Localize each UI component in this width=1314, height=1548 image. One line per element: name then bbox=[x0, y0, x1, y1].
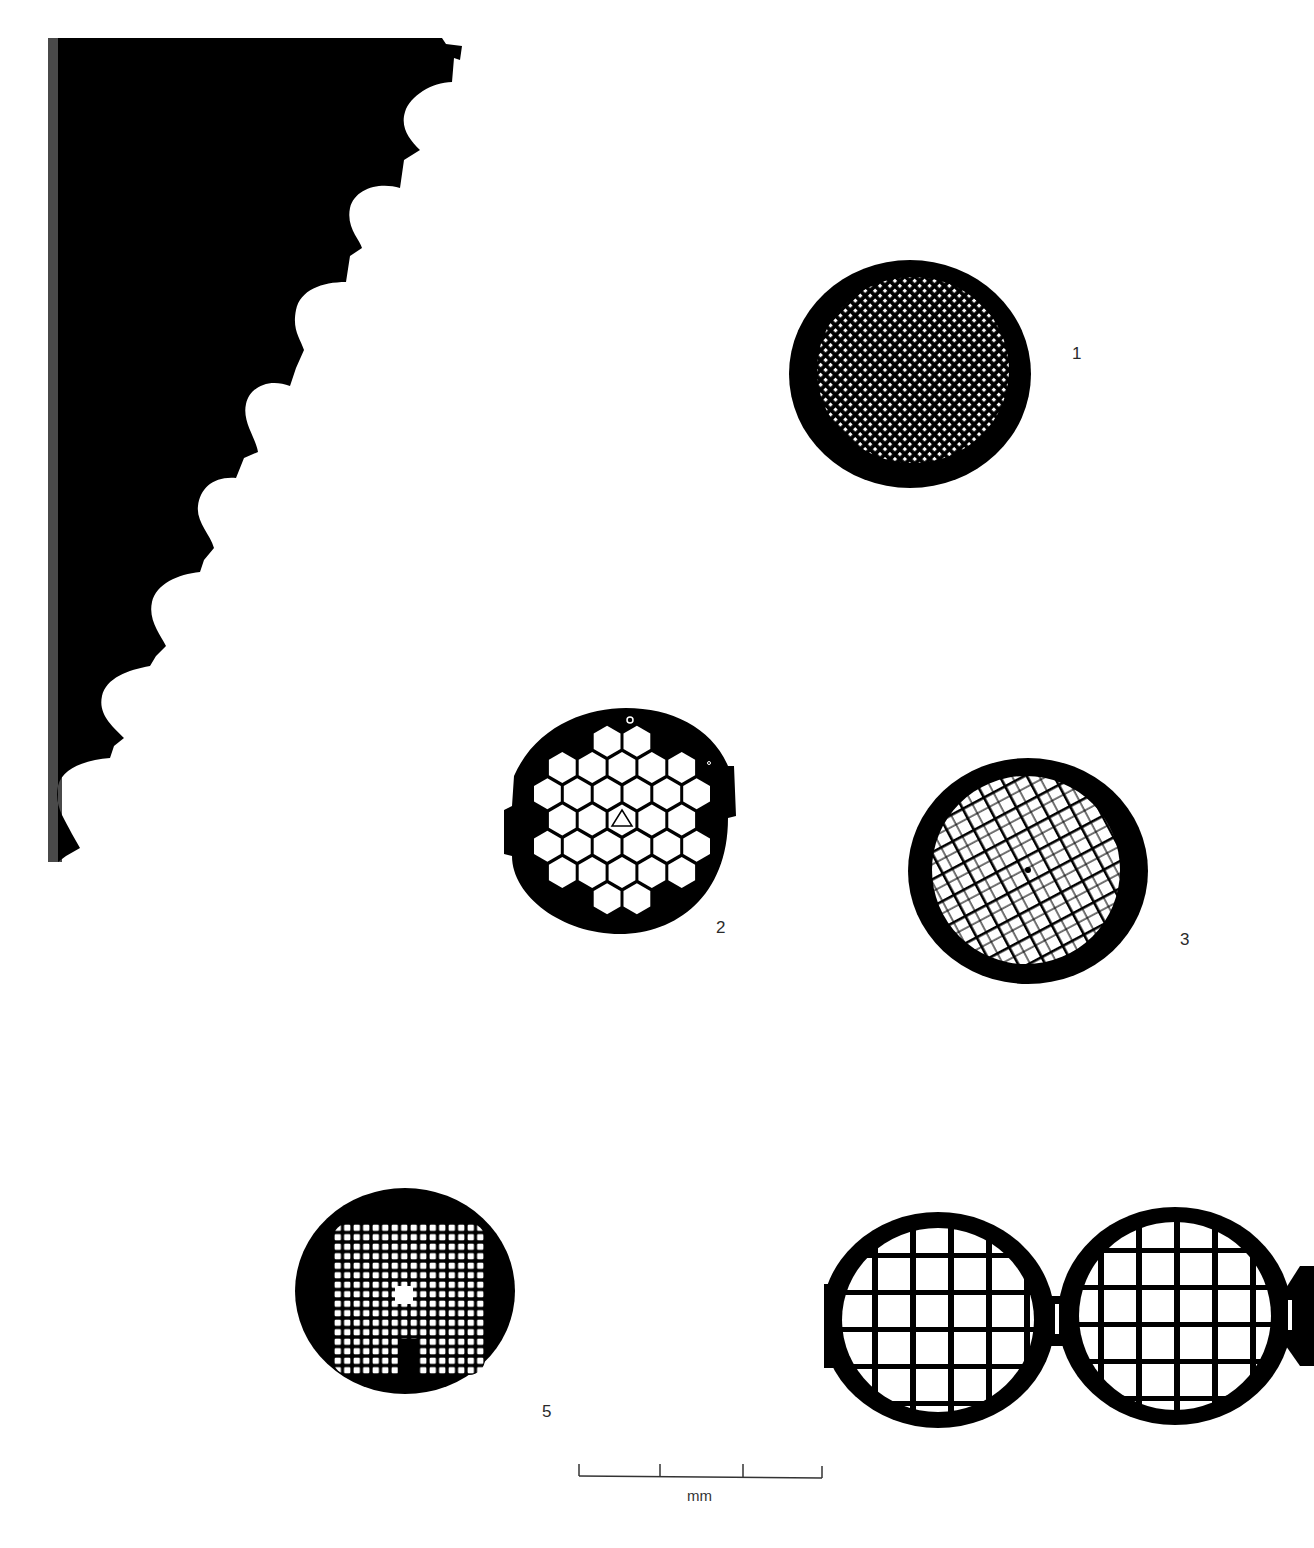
figure-label-2: 2 bbox=[716, 918, 725, 938]
figure-label-3: 3 bbox=[1180, 930, 1189, 950]
grid-figure-1 bbox=[786, 256, 1036, 492]
figure-label-1: 1 bbox=[1072, 344, 1081, 364]
scalloped-edge-figure bbox=[0, 0, 480, 880]
grid-figure-5 bbox=[292, 1186, 522, 1398]
scale-bar-unit-label: mm bbox=[687, 1487, 712, 1504]
figure-label-5: 5 bbox=[542, 1402, 551, 1422]
grid-figure-2 bbox=[496, 706, 746, 938]
grid-figure-4-double bbox=[824, 1196, 1314, 1442]
scale-bar bbox=[576, 1460, 826, 1484]
grid-figure-3 bbox=[906, 756, 1154, 988]
